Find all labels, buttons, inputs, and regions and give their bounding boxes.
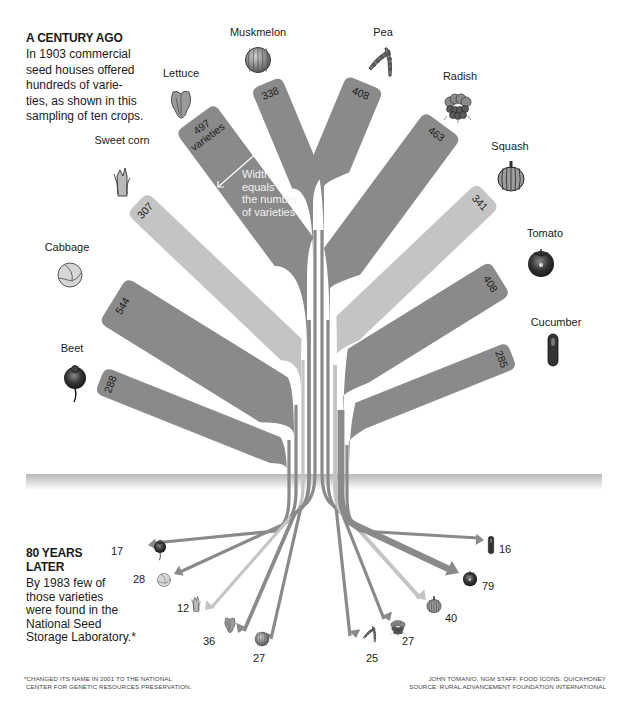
count-1983-tomato: 79 [482, 580, 494, 592]
muskmelon-icon [255, 632, 269, 646]
flow-line-tomato [341, 410, 453, 571]
later-line: Storage Laboratory.* [26, 631, 136, 645]
cabbage-icon [157, 573, 170, 586]
legend-line: of varieties [242, 206, 298, 219]
arrows-1983 [148, 534, 484, 641]
later-line: those varieties [26, 591, 136, 605]
legend-line: equals [242, 181, 298, 194]
later-line: were found in the [26, 604, 136, 618]
width-legend-text: Width equals the number of varieties [242, 168, 298, 218]
muskmelon-icon [246, 48, 271, 73]
later-heading: 80 YEARS LATER [26, 546, 82, 574]
count-1983-radish: 27 [402, 635, 414, 647]
crop-label-muskmelon: Muskmelon [230, 26, 286, 38]
flow-line-cucumber [347, 445, 478, 538]
crop-label-tomato: Tomato [527, 227, 563, 239]
radish-icon [444, 94, 471, 123]
credit-line: JOHN TOMANIO, NGM STAFF. FOOD ICONS: QUI… [409, 675, 606, 683]
beet-icon [64, 366, 86, 403]
later-heading-line: LATER [26, 560, 82, 574]
footnote-left: *CHANGED ITS NAME IN 2001 TO THE NATIONA… [24, 675, 191, 691]
footnote-line: *CHANGED ITS NAME IN 2001 TO THE NATIONA… [24, 675, 191, 683]
legend-line: the number [242, 193, 298, 206]
intro-line: In 1903 commercial [26, 47, 143, 63]
squash-icon [498, 161, 524, 191]
lettuce-icon [225, 618, 236, 633]
crop-label-pea: Pea [373, 26, 393, 38]
lettuce-icon [171, 91, 190, 118]
count-1983-sweet-corn: 12 [177, 602, 189, 614]
sweet-corn-icon [114, 168, 130, 196]
later-line: By 1983 few of [26, 577, 136, 591]
intro-line: hundreds of varie- [26, 78, 143, 94]
later-text: By 1983 few of those varieties were foun… [26, 577, 136, 645]
count-1983-cucumber: 16 [499, 543, 511, 555]
later-line: National Seed [26, 618, 136, 632]
intro-line: ties, as shown in this [26, 94, 143, 110]
crop-label-cabbage: Cabbage [45, 241, 90, 253]
cucumber-icon [548, 334, 558, 366]
crop-label-cucumber: Cucumber [531, 316, 582, 328]
count-1983-beet: 17 [111, 545, 123, 557]
pea-icon [369, 48, 392, 76]
crop-label-radish: Radish [443, 70, 477, 82]
crop-label-lettuce: Lettuce [163, 67, 199, 79]
later-heading-line: 80 YEARS [26, 546, 82, 560]
crop-label-beet: Beet [61, 342, 84, 354]
intro-heading: A CENTURY AGO [26, 31, 123, 45]
intro-line: seed houses offered [26, 63, 143, 79]
count-1983-pea: 25 [366, 652, 378, 664]
footnote-line: CENTER FOR GENETIC RESOURCES PRESERVATIO… [24, 683, 191, 691]
cucumber-icon [488, 536, 494, 554]
crop-label-sweet-corn: Sweet corn [94, 134, 149, 146]
cabbage-icon [58, 263, 82, 287]
tomato-icon [463, 571, 477, 586]
legend-line: Width [242, 168, 298, 181]
sweet-corn-icon [192, 596, 201, 611]
tomato-icon [528, 249, 554, 277]
squash-icon [427, 596, 441, 613]
count-1983-lettuce: 36 [203, 635, 215, 647]
count-1983-muskmelon: 27 [253, 652, 265, 664]
source-line: SOURCE: RURAL ADVANCEMENT FOUNDATION INT… [409, 683, 606, 691]
crop-label-squash: Squash [491, 140, 528, 152]
beet-icon [154, 540, 166, 560]
pea-icon [363, 626, 376, 641]
count-1983-squash: 40 [445, 612, 457, 624]
radish-icon [390, 620, 405, 636]
arrowhead-cucumber [476, 534, 484, 545]
intro-text: In 1903 commercial seed houses offered h… [26, 47, 143, 125]
footnote-right: JOHN TOMANIO, NGM STAFF. FOOD ICONS: QUI… [409, 675, 606, 691]
intro-line: sampling of ten crops. [26, 109, 143, 125]
variety-bands-1903: 288285544408307341497varieties463338408 [97, 78, 515, 478]
